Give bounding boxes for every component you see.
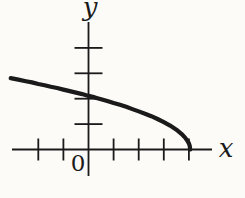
origin-label: 0 [71, 150, 86, 176]
plot-svg: y x 0 [0, 0, 245, 198]
math-figure: y x 0 [0, 0, 245, 198]
y-axis-label: y [82, 0, 98, 22]
x-axis-label: x [219, 133, 234, 163]
